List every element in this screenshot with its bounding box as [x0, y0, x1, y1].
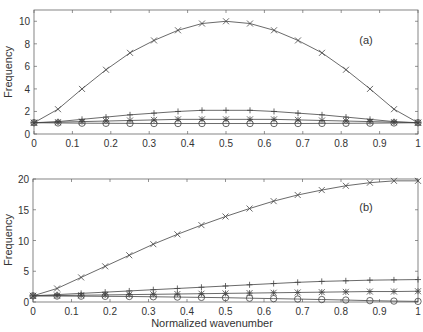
y-tick-label: 20 — [18, 174, 30, 185]
x-tick-label: 0 — [31, 138, 37, 149]
x-tick-label: 1 — [415, 138, 421, 149]
y-tick-label: 0 — [23, 297, 29, 308]
panel-a-y-axis-label: Frequency — [2, 46, 14, 98]
x-tick-label: 0.1 — [65, 138, 79, 149]
x-tick-label: 0 — [30, 306, 36, 317]
x-tick-label: 1 — [415, 306, 421, 317]
x-tick-label: 0.6 — [257, 306, 271, 317]
y-tick-label: 5 — [23, 266, 29, 277]
x-tick-label: 0.4 — [180, 306, 194, 317]
x-tick-label: 0.8 — [334, 306, 348, 317]
y-tick-label: 10 — [18, 236, 30, 247]
x-tick-label: 0.7 — [296, 138, 310, 149]
y-tick-label: 4 — [24, 84, 30, 95]
y-tick-label: 6 — [24, 61, 30, 72]
y-tick-label: 10 — [19, 16, 31, 27]
series-line-x-marker — [33, 181, 418, 296]
x-tick-label: 0.1 — [65, 306, 79, 317]
y-tick-label: 0 — [24, 129, 30, 140]
x-tick-label: 0.7 — [296, 306, 310, 317]
panel-a-plot: 00.10.20.30.40.50.60.70.80.910246810 — [19, 10, 421, 149]
x-tick-label: 0.8 — [334, 138, 348, 149]
x-tick-label: 0.9 — [373, 306, 387, 317]
x-tick-label: 0.4 — [181, 138, 195, 149]
x-tick-label: 0.5 — [219, 138, 233, 149]
panel-a-label: (a) — [359, 34, 372, 46]
x-tick-label: 0.2 — [103, 306, 117, 317]
panel-b-label: (b) — [359, 201, 372, 213]
y-tick-label: 8 — [24, 39, 30, 50]
y-tick-label: 2 — [24, 106, 30, 117]
x-tick-label: 0.3 — [142, 306, 156, 317]
y-tick-label: 15 — [18, 205, 30, 216]
x-tick-label: 0.3 — [142, 138, 156, 149]
panel-b-plot: 00.10.20.30.40.50.60.70.80.9105101520 — [18, 174, 421, 317]
x-tick-label: 0.9 — [373, 138, 387, 149]
x-tick-label: 0.6 — [257, 138, 271, 149]
panel-b-y-axis-label: Frequency — [2, 214, 14, 266]
series-line-circle-marker — [34, 123, 418, 124]
x-tick-label: 0.2 — [104, 138, 118, 149]
x-axis-label: Normalized wavenumber — [151, 317, 273, 329]
x-tick-label: 0.5 — [219, 306, 233, 317]
axes-box — [34, 10, 418, 134]
figure: 00.10.20.30.40.50.60.70.80.910246810 00.… — [0, 0, 423, 332]
